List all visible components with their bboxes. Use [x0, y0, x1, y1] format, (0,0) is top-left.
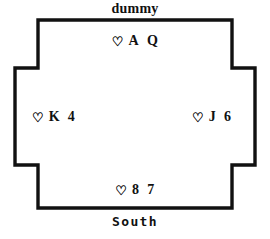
- card-rank: 4: [68, 109, 75, 125]
- card-rank: J: [209, 109, 216, 125]
- heart-suit-icon: ♡: [112, 35, 124, 48]
- hand-north: ♡ A Q: [0, 33, 270, 49]
- hand-south: ♡ 8 7: [0, 182, 270, 198]
- position-label-dummy: dummy: [0, 1, 270, 17]
- heart-suit-icon: ♡: [192, 111, 204, 124]
- heart-suit-icon: ♡: [32, 111, 44, 124]
- hand-east: ♡ J 6: [192, 109, 231, 125]
- hand-west: ♡ K 4: [32, 109, 75, 125]
- position-label-south: South: [0, 214, 270, 229]
- card-rank: 7: [147, 182, 154, 198]
- heart-suit-icon: ♡: [115, 184, 127, 197]
- card-rank: A: [129, 33, 139, 49]
- bridge-hand-diagram: dummy ♡ A Q ♡ K 4 ♡ J 6 ♡ 8 7 South: [0, 0, 270, 239]
- card-rank: 8: [132, 182, 139, 198]
- card-rank: 6: [224, 109, 231, 125]
- card-rank: Q: [147, 33, 158, 49]
- card-rank: K: [49, 109, 60, 125]
